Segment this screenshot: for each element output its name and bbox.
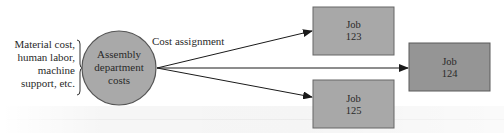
job-124-label: Job <box>442 56 457 67</box>
input-costs-label: Material cost, human labor, machine supp… <box>15 38 76 89</box>
job-124-number: 124 <box>442 68 459 79</box>
job-125-label: Job <box>346 93 361 104</box>
job-125-number: 125 <box>346 105 362 116</box>
job-125-box <box>313 80 394 128</box>
arrow-to-job-125 <box>157 68 312 97</box>
assembly-department-costs-node: Assembly department costs <box>82 31 156 105</box>
input-costs-line: support, etc. <box>21 77 75 89</box>
job-123-label: Job <box>346 19 361 30</box>
source-node-line: department <box>94 61 143 73</box>
input-costs-line: machine <box>38 64 75 76</box>
source-node-line: Assembly <box>97 48 142 60</box>
job-124-node: Job 124 <box>409 43 490 91</box>
cost-assignment-diagram: Material cost, human labor, machine supp… <box>0 0 504 133</box>
job-125-node: Job 125 <box>313 80 394 128</box>
job-124-box <box>409 43 490 91</box>
input-costs-line: human labor, <box>17 51 75 63</box>
edge-label-cost-assignment: Cost assignment <box>152 35 224 47</box>
input-costs-line: Material cost, <box>15 38 76 50</box>
source-node-line: costs <box>108 74 130 86</box>
job-123-node: Job 123 <box>313 7 394 55</box>
job-123-number: 123 <box>346 31 362 42</box>
